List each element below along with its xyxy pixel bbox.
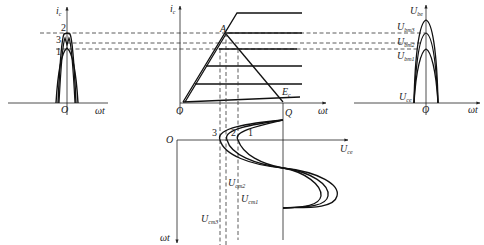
bottom-curve-label-2: 2 <box>231 127 236 138</box>
U-cm2-label: Ucm2 <box>228 177 245 189</box>
U-bm1-label: Ubm1 <box>397 50 415 62</box>
middle-origin-label: O <box>176 105 183 116</box>
middle-y-axis-label: ic <box>170 3 176 15</box>
U-cm1-label: Ucm1 <box>241 193 258 205</box>
right-x-axis-label: ωt <box>468 104 478 115</box>
point-A-label: A <box>219 23 227 34</box>
bottom-origin-label: O <box>166 134 173 145</box>
bottom-x-axis-label: Uce <box>340 143 353 155</box>
left-curve-label-2: 2 <box>61 22 66 33</box>
left-x-axis-label: ωt <box>95 105 105 116</box>
right-panel: Ube Ubm3 Ubm2 Ubm1 Uce O ωt <box>354 5 480 115</box>
E-c-label: Ec <box>281 86 291 98</box>
collector-characteristics-diagram: ic O 2 3 1 ωt ic O ωt A Q Ec <box>0 0 484 245</box>
U-bm3-label: Ubm3 <box>397 21 415 33</box>
left-curve-label-1: 1 <box>56 46 61 57</box>
left-y-axis-label: ic <box>56 5 62 17</box>
right-y-axis-label: Ube <box>410 5 423 17</box>
middle-panel: ic O ωt A Q Ec <box>170 3 328 118</box>
bottom-curve-label-3: 3 <box>212 127 217 138</box>
vertical-dashed-guides <box>220 33 238 245</box>
U-cm3-label: Ucm3 <box>201 213 218 225</box>
U-ce-label: Uce <box>399 91 412 103</box>
point-Q-label: Q <box>285 107 293 118</box>
U-bm2-label: Ubm2 <box>397 36 415 48</box>
middle-x-axis-label: ωt <box>318 105 328 116</box>
right-origin-label: O <box>422 104 429 115</box>
bottom-y-axis-label: ωt <box>160 232 170 243</box>
left-origin-label: O <box>61 104 68 115</box>
left-panel: ic O 2 3 1 ωt <box>8 5 108 116</box>
bottom-curve-label-1: 1 <box>248 127 253 138</box>
bottom-panel: O Uce ωt 3 2 1 Ucm2 Ucm1 Ucm3 <box>160 103 353 243</box>
left-curve-label-3: 3 <box>56 34 61 45</box>
